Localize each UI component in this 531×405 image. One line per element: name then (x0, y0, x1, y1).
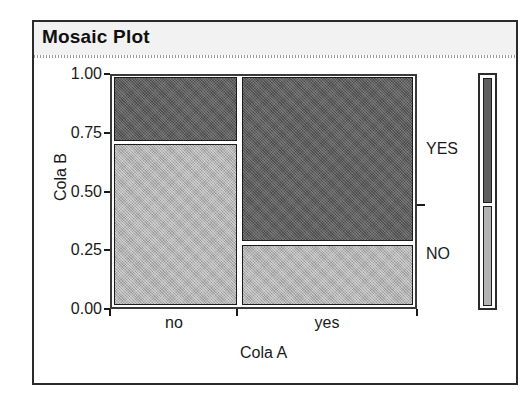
y-tick-label-2: 0.50 (71, 183, 102, 201)
y-tick-label-4: 1.00 (71, 65, 102, 83)
legend-segment-no[interactable] (483, 206, 492, 306)
mosaic-tile-no-no[interactable] (114, 144, 237, 305)
mosaic-tile-no-yes[interactable] (114, 77, 237, 141)
x-tick-label-yes: yes (315, 314, 340, 332)
right-label-no: NO (426, 245, 450, 263)
y-tick-label-1: 0.25 (71, 241, 102, 259)
right-label-yes: YES (426, 140, 458, 158)
legend-strip[interactable] (478, 73, 497, 310)
y-tick-label-3: 0.75 (71, 124, 102, 142)
plot-window: Mosaic Plot Cola B 0.00 0.25 0.50 0.75 1… (32, 20, 518, 385)
page-title: Mosaic Plot (42, 26, 150, 48)
mosaic-plot-area (110, 74, 417, 309)
x-axis-tick-labels: no yes (110, 314, 417, 336)
right-axis-tick-mark (417, 204, 425, 206)
plot-canvas: Cola B 0.00 0.25 0.50 0.75 1.00 no (34, 58, 516, 383)
mosaic-tile-yes-no[interactable] (242, 245, 413, 306)
y-axis-tick-labels: 0.00 0.25 0.50 0.75 1.00 (34, 74, 102, 309)
y-tick-label-0: 0.00 (71, 300, 102, 318)
x-axis-title: Cola A (110, 344, 417, 362)
mosaic-tile-yes-yes[interactable] (242, 77, 413, 241)
x-tick-label-no: no (165, 314, 183, 332)
legend-segment-yes[interactable] (483, 78, 492, 203)
window-titlebar: Mosaic Plot (34, 22, 516, 55)
